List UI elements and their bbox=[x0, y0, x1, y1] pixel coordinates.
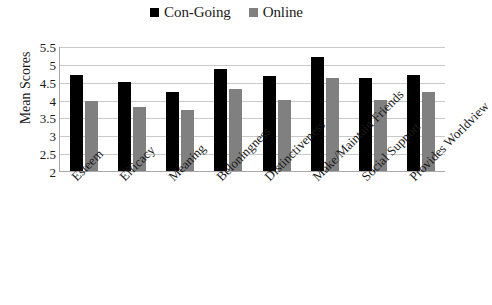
legend-item-con-going: Con-Going bbox=[150, 5, 231, 20]
y-axis-tick-label: 4 bbox=[22, 94, 56, 107]
chart-legend: Con-Going Online bbox=[0, 5, 453, 20]
x-axis-tick-labels: EsteemEfficacyMeaningBeloningnessDistinc… bbox=[59, 174, 445, 302]
y-axis-tick-label: 3.5 bbox=[22, 112, 56, 125]
y-axis-tick-label: 5.5 bbox=[22, 41, 56, 54]
legend-label-online: Online bbox=[263, 5, 303, 20]
y-axis-tick-label: 2 bbox=[22, 166, 56, 179]
y-axis-tick-label: 5 bbox=[22, 58, 56, 71]
y-axis-tick-label: 4.5 bbox=[22, 76, 56, 89]
bar-con-going bbox=[118, 82, 131, 171]
y-axis-tick-labels: 22.533.544.555.5 bbox=[22, 41, 56, 172]
legend-label-con-going: Con-Going bbox=[164, 5, 231, 20]
bar-con-going bbox=[263, 76, 276, 171]
bar-con-going bbox=[214, 69, 227, 171]
legend-swatch-gray bbox=[249, 8, 258, 17]
legend-item-online: Online bbox=[249, 5, 303, 20]
bar-con-going bbox=[166, 92, 179, 171]
legend-swatch-black bbox=[150, 8, 159, 17]
y-axis-tick-label: 3 bbox=[22, 130, 56, 143]
y-axis-tick-label: 2.5 bbox=[22, 148, 56, 161]
bar-con-going bbox=[70, 75, 83, 171]
bar-con-going bbox=[311, 57, 324, 171]
